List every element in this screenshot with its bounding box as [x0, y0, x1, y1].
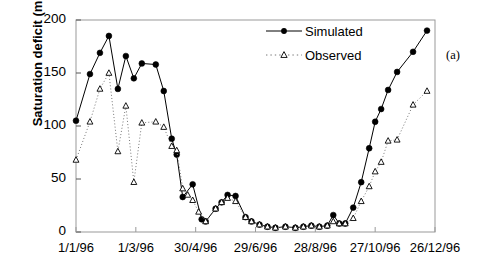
data-point: [366, 183, 372, 189]
data-point: [87, 71, 93, 77]
legend: [266, 28, 302, 57]
data-point: [394, 69, 400, 75]
data-point: [139, 61, 145, 67]
data-point: [73, 118, 79, 124]
panel-label: (a): [446, 48, 460, 63]
data-point: [115, 86, 121, 92]
data-point: [385, 87, 391, 93]
data-point: [123, 103, 129, 109]
data-point: [123, 53, 129, 59]
data-point: [115, 148, 121, 154]
data-point: [350, 205, 356, 211]
data-point: [106, 70, 112, 76]
data-point: [378, 159, 384, 165]
data-point: [97, 86, 103, 92]
data-point: [410, 49, 416, 55]
data-point: [139, 120, 145, 126]
plot-svg: [0, 0, 486, 278]
data-point: [190, 197, 196, 203]
data-point: [131, 179, 137, 185]
series-observed: [73, 70, 430, 230]
series-line-0: [76, 31, 427, 228]
data-point: [190, 181, 196, 187]
data-point: [358, 198, 364, 204]
data-point: [180, 185, 186, 191]
series-simulated: [73, 28, 430, 231]
data-point: [394, 137, 400, 143]
data-point: [153, 119, 159, 125]
data-point: [372, 119, 378, 125]
data-point: [161, 124, 167, 130]
data-point: [87, 119, 93, 125]
chart-figure: Saturation deficit (mm) 050100150200 1/1…: [0, 0, 486, 278]
data-point: [131, 75, 137, 81]
data-point: [424, 28, 430, 34]
legend-marker-simulated: [281, 28, 287, 34]
data-point: [366, 145, 372, 151]
data-point: [378, 106, 384, 112]
legend-label-observed: Observed: [305, 48, 361, 63]
data-point: [97, 50, 103, 56]
data-point: [385, 138, 391, 144]
data-point: [196, 209, 202, 215]
data-point: [350, 215, 356, 221]
data-point: [106, 33, 112, 39]
plot-area: [0, 0, 486, 278]
data-point: [73, 157, 79, 163]
series-line-1: [76, 73, 427, 228]
legend-marker-observed: [281, 52, 287, 58]
legend-label-simulated: Simulated: [305, 24, 363, 39]
data-point: [161, 88, 167, 94]
data-point: [153, 62, 159, 68]
data-point: [330, 212, 336, 218]
plot-frame: [76, 20, 435, 232]
data-point: [358, 179, 364, 185]
data-point: [169, 136, 175, 142]
data-point: [424, 88, 430, 94]
data-point: [372, 168, 378, 174]
